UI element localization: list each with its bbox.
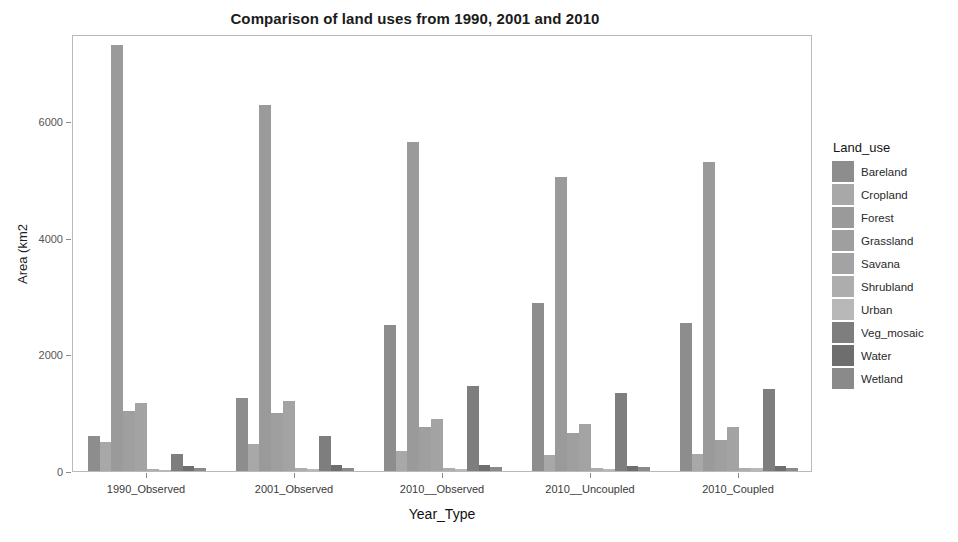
bar	[407, 142, 419, 471]
bar	[680, 323, 692, 471]
legend-label: Cropland	[861, 189, 908, 201]
legend-label: Savana	[861, 258, 900, 270]
bar	[763, 389, 775, 471]
bar	[319, 436, 331, 471]
bar	[194, 468, 206, 471]
legend-swatch-icon	[832, 161, 854, 182]
bar	[236, 398, 248, 471]
legend-swatch-icon	[832, 276, 854, 297]
bar	[615, 393, 627, 471]
legend-title: Land_use	[833, 140, 958, 155]
legend-item[interactable]: Veg_mosaic	[832, 321, 958, 344]
y-tick-label: 6000	[15, 116, 63, 128]
legend-label: Urban	[861, 304, 892, 316]
x-axis-title: Year_Type	[72, 506, 812, 522]
plot-panel	[72, 35, 812, 472]
bar	[603, 469, 615, 471]
bar	[786, 468, 798, 471]
bar	[775, 466, 787, 471]
bar	[703, 162, 715, 471]
legend-item[interactable]: Cropland	[832, 183, 958, 206]
legend-swatch-icon	[832, 299, 854, 320]
legend-item[interactable]: Forest	[832, 206, 958, 229]
legend-item[interactable]: Shrubland	[832, 275, 958, 298]
bar	[159, 470, 171, 471]
legend-label: Bareland	[861, 166, 907, 178]
legend-label: Shrubland	[861, 281, 913, 293]
legend-label: Grassland	[861, 235, 913, 247]
legend-label: Water	[861, 350, 891, 362]
bar	[396, 451, 408, 471]
bar	[627, 466, 639, 471]
legend-label: Wetland	[861, 373, 903, 385]
y-tick-mark	[66, 472, 71, 473]
legend-item[interactable]: Grassland	[832, 229, 958, 252]
bar	[100, 442, 112, 471]
legend-swatch-icon	[832, 230, 854, 251]
bar	[135, 403, 147, 471]
bar	[183, 466, 195, 471]
bar	[342, 468, 354, 471]
y-tick-mark	[66, 122, 71, 123]
chart-root: Comparison of land uses from 1990, 2001 …	[0, 0, 958, 542]
legend-item[interactable]: Urban	[832, 298, 958, 321]
legend-label: Veg_mosaic	[861, 327, 924, 339]
bar	[88, 436, 100, 471]
bar	[259, 105, 271, 471]
y-tick-label: 0	[15, 466, 63, 478]
bar	[443, 468, 455, 471]
legend-item[interactable]: Wetland	[832, 367, 958, 390]
x-tick-mark	[738, 473, 739, 478]
bar	[419, 427, 431, 471]
bar	[591, 468, 603, 471]
bar	[467, 386, 479, 471]
bar	[307, 469, 319, 471]
x-tick-mark	[590, 473, 591, 478]
bar	[727, 427, 739, 471]
bar	[123, 411, 135, 471]
x-tick-mark	[442, 473, 443, 478]
legend-items: BarelandCroplandForestGrasslandSavanaShr…	[832, 160, 958, 390]
bar	[271, 413, 283, 471]
x-tick-label: 2010__Uncoupled	[545, 483, 634, 495]
bar	[147, 469, 159, 471]
legend-item[interactable]: Water	[832, 344, 958, 367]
bar	[638, 467, 650, 471]
x-tick-label: 2010__Observed	[400, 483, 484, 495]
bar	[479, 465, 491, 471]
bar	[331, 465, 343, 471]
legend-swatch-icon	[832, 368, 854, 389]
x-tick-mark	[294, 473, 295, 478]
bar	[579, 424, 591, 471]
legend-swatch-icon	[832, 345, 854, 366]
legend-item[interactable]: Savana	[832, 252, 958, 275]
y-tick-mark	[66, 355, 71, 356]
bar	[532, 303, 544, 471]
legend-swatch-icon	[832, 184, 854, 205]
bar	[455, 469, 467, 471]
bar	[431, 419, 443, 471]
bar	[283, 401, 295, 472]
legend-swatch-icon	[832, 253, 854, 274]
y-tick-label: 2000	[15, 349, 63, 361]
legend-item[interactable]: Bareland	[832, 160, 958, 183]
bar	[295, 468, 307, 471]
bar	[715, 440, 727, 471]
bar	[567, 433, 579, 471]
x-tick-label: 2001_Observed	[255, 483, 333, 495]
chart-title: Comparison of land uses from 1990, 2001 …	[0, 10, 830, 27]
bar	[544, 455, 556, 471]
legend-swatch-icon	[832, 322, 854, 343]
legend: Land_use BarelandCroplandForestGrassland…	[832, 140, 958, 390]
x-tick-label: 2010_Coupled	[702, 483, 774, 495]
legend-label: Forest	[861, 212, 894, 224]
x-tick-mark	[146, 473, 147, 478]
bar	[490, 467, 502, 471]
bar	[692, 454, 704, 471]
plot-area	[73, 36, 811, 471]
bar	[171, 454, 183, 471]
y-tick-label: 4000	[15, 233, 63, 245]
bar	[751, 468, 763, 471]
bar	[555, 177, 567, 471]
bar	[248, 444, 260, 471]
